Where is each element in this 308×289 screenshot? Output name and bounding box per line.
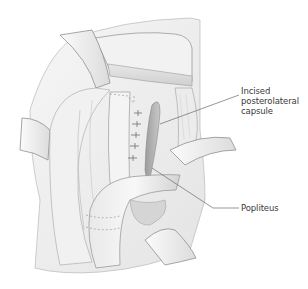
label-popliteus: Popliteus (241, 203, 279, 213)
surgical-illustration: Incised posterolateral capsule Popliteus (0, 0, 308, 289)
label-line: Incised (241, 86, 299, 96)
label-incised-posterolateral-capsule: Incised posterolateral capsule (241, 86, 299, 116)
label-line: Popliteus (241, 203, 279, 213)
label-line: capsule (241, 106, 299, 116)
label-line: posterolateral (241, 96, 299, 106)
illustration-canvas (0, 0, 308, 289)
